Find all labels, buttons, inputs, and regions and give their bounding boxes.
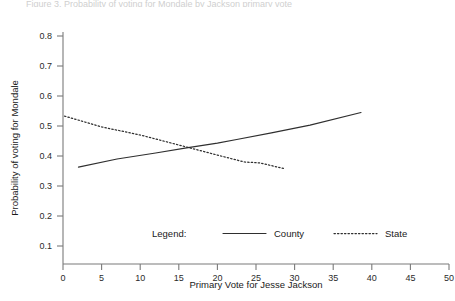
x-tick-label: 15 — [174, 273, 184, 283]
y-tick-label: 0.6 — [39, 91, 52, 101]
y-axis-title: Probability of voting for Mondale — [9, 80, 20, 216]
x-tick-label: 35 — [328, 273, 338, 283]
x-tick-label: 10 — [135, 273, 145, 283]
x-tick-label: 45 — [405, 273, 415, 283]
legend-label-state: State — [385, 228, 407, 239]
x-tick-label: 5 — [99, 273, 104, 283]
chart-figure: Figure 3. Probability of voting for Mond… — [0, 0, 455, 301]
series-line-county — [78, 113, 361, 168]
series-line-state — [65, 116, 286, 169]
x-tick-label: 50 — [444, 273, 454, 283]
y-tick-label: 0.3 — [39, 181, 52, 191]
line-chart-canvas: 0.10.20.30.40.50.60.70.8 051015202530354… — [0, 0, 455, 301]
y-axis-ticks: 0.10.20.30.40.50.60.70.8 — [39, 31, 63, 251]
chart-legend: Legend: County State — [152, 228, 407, 239]
y-tick-label: 0.5 — [39, 121, 52, 131]
y-tick-label: 0.1 — [39, 241, 52, 251]
legend-title: Legend: — [152, 228, 186, 239]
x-axis-title: Primary Vote for Jesse Jackson — [189, 279, 322, 290]
y-tick-label: 0.4 — [39, 151, 52, 161]
legend-label-county: County — [274, 228, 304, 239]
x-tick-label: 0 — [60, 273, 65, 283]
x-tick-label: 40 — [367, 273, 377, 283]
y-tick-label: 0.2 — [39, 211, 52, 221]
y-tick-label: 0.7 — [39, 61, 52, 71]
y-tick-label: 0.8 — [39, 31, 52, 41]
data-series-layer — [65, 113, 361, 169]
